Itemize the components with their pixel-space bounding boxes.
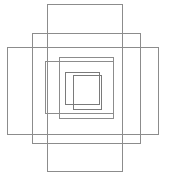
rectangles-figure	[0, 0, 173, 183]
diagram-canvas	[0, 0, 173, 183]
canvas-background	[0, 0, 173, 183]
